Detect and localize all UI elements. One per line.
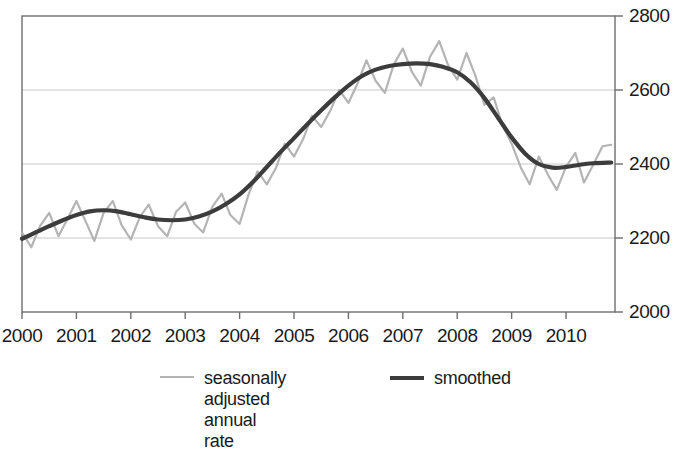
y-axis-tick-label: 2200 bbox=[629, 228, 670, 247]
x-axis-tick-label: 2002 bbox=[104, 326, 158, 345]
y-axis-tick-label: 2000 bbox=[629, 302, 670, 321]
x-axis-tick-label: 2000 bbox=[0, 326, 49, 345]
x-axis-tick-label: 2007 bbox=[376, 326, 430, 345]
plot-area: 20002200240026002800 2000200120022003200… bbox=[0, 0, 683, 360]
x-axis-tick-label: 2004 bbox=[213, 326, 267, 345]
x-axis-tick-label: 2010 bbox=[539, 326, 593, 345]
x-axis-tick-label: 2005 bbox=[267, 326, 321, 345]
y-axis-tick-label: 2800 bbox=[629, 6, 670, 25]
y-axis-tick-label: 2400 bbox=[629, 154, 670, 173]
legend-swatch-line-icon bbox=[390, 376, 424, 380]
x-axis-tick-label: 2009 bbox=[485, 326, 539, 345]
legend-label: smoothed bbox=[434, 368, 511, 389]
x-axis-tick-label: 2006 bbox=[321, 326, 375, 345]
x-axis-tick-label: 2008 bbox=[430, 326, 484, 345]
x-axis-ticks bbox=[22, 312, 566, 319]
data-series bbox=[22, 41, 611, 247]
x-axis-tick-label: 2003 bbox=[158, 326, 212, 345]
legend-swatch-line-icon bbox=[160, 376, 194, 378]
x-axis-tick-label: 2001 bbox=[49, 326, 103, 345]
legend-label: seasonally adjusted annual rate bbox=[204, 368, 286, 451]
y-axis-tick-label: 2600 bbox=[629, 80, 670, 99]
series-line-seasonally-adjusted bbox=[22, 41, 611, 247]
chart-legend: seasonally adjusted annual ratesmoothed bbox=[0, 358, 683, 425]
y-axis-ticks bbox=[615, 16, 623, 312]
chart-canvas bbox=[0, 0, 683, 360]
